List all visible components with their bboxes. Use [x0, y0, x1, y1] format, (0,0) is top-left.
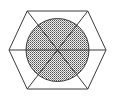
figure-container: [0, 0, 116, 100]
hexagon-circle-diagram: [0, 0, 116, 100]
